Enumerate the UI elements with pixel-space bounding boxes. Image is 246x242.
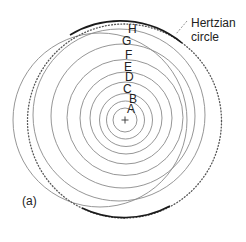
contact-rings-diagram: H G F E D C B A Hertzian circle (a) [0, 0, 246, 242]
center-cross-icon [122, 117, 129, 124]
ring-group [33, 29, 205, 201]
ring-label-g: G [122, 34, 131, 48]
ring-label-a: A [127, 102, 135, 116]
annotation-leader-line [176, 21, 187, 34]
panel-label: (a) [22, 194, 37, 208]
annotation-hertzian: Hertzian [191, 16, 236, 30]
annotation-circle: circle [191, 30, 219, 44]
outer-offset-ring [13, 33, 187, 207]
hertzian-arc-bottom [82, 206, 170, 218]
